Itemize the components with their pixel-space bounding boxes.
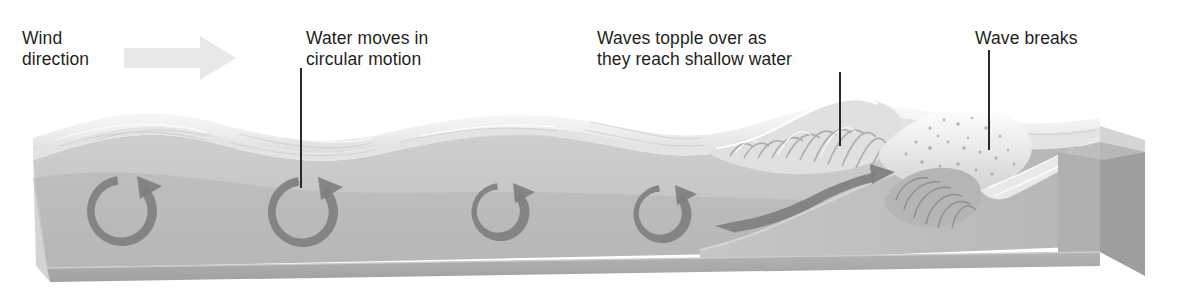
label-waves-topple: Waves topple over as they reach shallow … [597, 28, 792, 70]
leader-line-wave-breaks [988, 50, 990, 150]
label-circular-motion: Water moves in circular motion [306, 28, 428, 70]
label-wave-breaks: Wave breaks [975, 28, 1078, 49]
wave-diagram: Wind direction Water moves in circular m… [0, 0, 1191, 307]
leader-line-waves-topple [839, 72, 841, 146]
label-wind-direction: Wind direction [22, 28, 89, 70]
leader-line-circular-motion [300, 68, 302, 188]
wind-direction-arrow [124, 36, 236, 80]
